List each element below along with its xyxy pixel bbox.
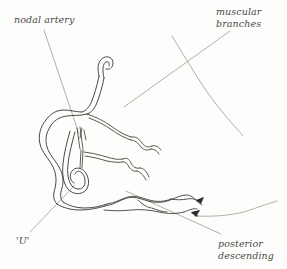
vessel-shoulder-lower [50,114,87,127]
leader-muscular-branches-line [124,31,230,107]
label-muscular-branches-line1: muscular [216,6,261,17]
reference-curve-right [172,36,243,136]
branch-arcade-upper-inner [89,118,131,140]
vessel-sinuous-left-outer [39,120,57,204]
leader-nodal-artery-line [44,30,79,134]
branch-arcade-tip-2 [140,168,149,177]
vessel-top-hook-inner [103,62,109,78]
nodal-tick-5 [80,150,81,168]
nodal-tick-1 [77,128,80,149]
branch-arcade-wiggle-2b [122,162,137,172]
label-posterior-descending-line1: posterior [218,238,263,249]
anatomical-figure: nodal artery muscularbranches posteriord… [0,0,287,269]
branch-arcade-wiggle-2 [123,158,140,168]
figure-canvas [0,0,287,269]
label-posterior-descending: posteriordescending [218,238,274,261]
pd-branch-upper-fork [170,195,197,201]
vessel-ascending-right [87,78,104,114]
branch-arcade-tip-1b [151,149,159,154]
vessel-ascending-left [82,76,99,112]
reference-curve-lower-right [196,201,277,216]
nodal-tick-6 [82,150,83,168]
label-posterior-descending-line2: descending [218,250,274,261]
branch-arrowheads [191,197,204,217]
label-muscular-branches-line2: branches [216,18,261,29]
label-u-marker: 'U' [16,235,30,247]
branch-arcade-lower-outer [84,152,123,159]
branch-arcade-wiggle-1 [131,137,152,147]
arrowhead-1 [196,197,204,204]
leader-lines [30,30,277,234]
posterior-descending-branches [104,195,203,216]
label-nodal-artery: nodal artery [14,14,74,26]
pd-branch-upper-fork-b [171,199,199,202]
nodal-tick-4 [84,130,86,140]
muscular-branch-arcade [84,114,161,180]
branch-arcade-tip-2b [137,171,146,180]
vessel-outlines [39,57,113,210]
label-muscular-branches: muscularbranches [216,6,261,29]
branch-arcade-upper-outer [87,114,131,137]
vessel-top-hook-outer [98,57,113,76]
